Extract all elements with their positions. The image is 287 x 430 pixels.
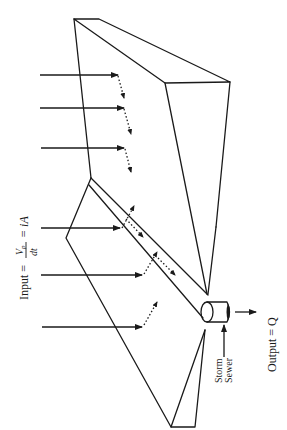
output-label: Output = Q: [265, 317, 279, 372]
overland-flow-arrows: [118, 76, 175, 325]
svg-text:Sewer: Sewer: [223, 357, 234, 383]
lower-catchment-surface: [66, 178, 205, 427]
input-equation-label: Input = V p dt = iA: [14, 216, 39, 300]
storm-sewer-pipe: [201, 302, 230, 322]
svg-text:Input =: Input =: [17, 265, 31, 300]
gutter-channel: [89, 178, 208, 318]
svg-text:= iA: = iA: [17, 216, 31, 238]
svg-text:dt: dt: [28, 248, 39, 256]
rainfall-input-arrows: [40, 75, 142, 327]
svg-text:Output = Q: Output = Q: [265, 317, 279, 372]
catchment-diagram: Input = V p dt = iA Storm Sewer Output =…: [0, 0, 287, 430]
upper-catchment-surface: [74, 19, 230, 294]
storm-sewer-label: Storm Sewer: [213, 357, 234, 383]
